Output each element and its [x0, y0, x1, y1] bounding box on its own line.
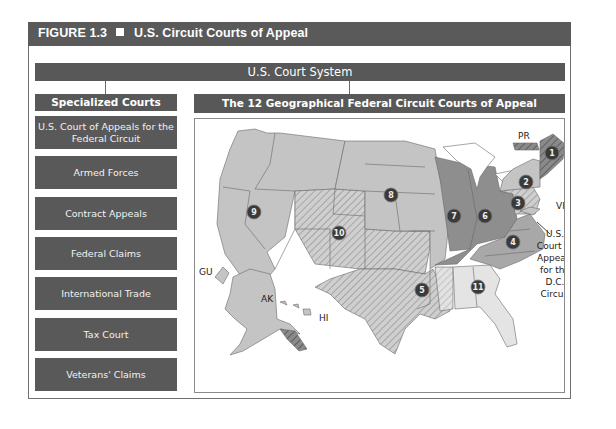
label-pr: PR: [518, 131, 530, 141]
connector-line-geographical: [349, 81, 350, 94]
svg-text:Appeals: Appeals: [537, 253, 565, 263]
circuit-marker-4: 4: [506, 235, 520, 249]
figure-caption: U.S. Circuit Courts of Appeal: [134, 26, 308, 40]
specialized-court-veterans-claims: Veterans' Claims: [35, 358, 177, 391]
svg-text:8: 8: [388, 191, 394, 200]
figure-label: FIGURE 1.3: [38, 26, 107, 40]
label-hi: HI: [319, 313, 328, 323]
svg-text:Court of: Court of: [537, 241, 565, 251]
court-system-header: U.S. Court System: [35, 63, 565, 81]
specialized-courts-header: Specialized Courts: [35, 94, 177, 111]
region-alaska: [225, 269, 300, 355]
svg-text:D.C.: D.C.: [546, 277, 565, 287]
svg-text:10: 10: [333, 229, 345, 238]
region-puerto-rico: [513, 143, 539, 150]
circuit-marker-9: 9: [247, 205, 261, 219]
circuit-marker-1: 1: [545, 146, 559, 160]
specialized-court-armed-forces: Armed Forces: [35, 156, 177, 189]
circuit-marker-7: 7: [447, 209, 461, 223]
label-ak: AK: [261, 294, 274, 304]
specialized-court-federal-circuit: U.S. Court of Appeals for the Federal Ci…: [35, 116, 177, 149]
svg-text:5: 5: [419, 286, 425, 295]
region-guam: [215, 267, 229, 284]
label-vi: VI: [556, 201, 565, 211]
svg-text:3: 3: [515, 199, 521, 208]
svg-text:1: 1: [549, 149, 555, 158]
circuit-map: 1 2 3 4 5 6 7 8 9 10 11 PR VI GU AK HI U…: [194, 118, 565, 393]
geographical-courts-header: The 12 Geographical Federal Circuit Cour…: [194, 94, 565, 113]
circuit-marker-11: 11: [471, 280, 485, 294]
region-hawaii: [280, 301, 311, 315]
circuit-marker-10: 10: [332, 226, 346, 240]
svg-text:2: 2: [523, 178, 529, 187]
svg-text:9: 9: [251, 208, 257, 217]
svg-text:for the: for the: [540, 265, 565, 275]
svg-text:4: 4: [510, 238, 516, 247]
label-gu: GU: [199, 267, 213, 277]
svg-text:U.S.: U.S.: [546, 229, 564, 239]
svg-text:7: 7: [451, 212, 457, 221]
svg-text:11: 11: [472, 283, 484, 292]
square-bullet-icon: [116, 28, 124, 36]
connector-line-specialized: [105, 81, 106, 94]
circuit-marker-2: 2: [519, 175, 533, 189]
svg-text:Circuit: Circuit: [541, 289, 565, 299]
svg-text:6: 6: [482, 212, 488, 221]
circuit-marker-3: 3: [511, 196, 525, 210]
figure-title: FIGURE 1.3U.S. Circuit Courts of Appeal: [38, 26, 308, 40]
circuit-marker-8: 8: [384, 188, 398, 202]
specialized-court-tax-court: Tax Court: [35, 318, 177, 351]
circuit-marker-5: 5: [415, 283, 429, 297]
circuit-marker-6: 6: [478, 209, 492, 223]
specialized-court-international-trade: International Trade: [35, 277, 177, 310]
region-alaska-panhandle: [280, 329, 307, 351]
region-circuit-11: [453, 265, 517, 347]
specialized-court-contract-appeals: Contract Appeals: [35, 197, 177, 230]
specialized-court-federal-claims: Federal Claims: [35, 237, 177, 270]
us-map-graphic: 1 2 3 4 5 6 7 8 9 10 11 PR VI GU AK HI U…: [195, 119, 565, 393]
